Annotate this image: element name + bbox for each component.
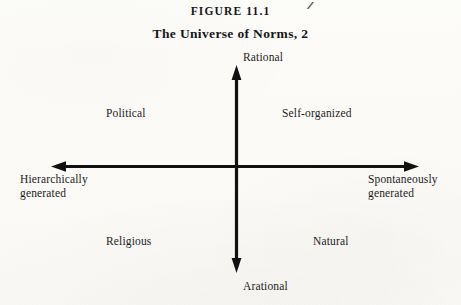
axis-label-right: Spontaneously generated — [368, 172, 438, 200]
axis-label-left-line2: generated — [20, 186, 88, 200]
axis-label-bottom: Arational — [243, 279, 288, 293]
axes-diagram — [0, 0, 461, 305]
arrowhead-left — [51, 161, 66, 172]
quadrant-label-bottom-left: Religious — [106, 234, 151, 248]
figure-page: FIGURE 11.1 The Universe of Norms, 2 Rat… — [0, 0, 461, 305]
arrowhead-right — [404, 161, 419, 172]
axis-label-left: Hierarchically generated — [20, 172, 88, 200]
axis-label-bottom-text: Arational — [243, 279, 288, 293]
axis-label-right-line2: generated — [368, 186, 438, 200]
arrowhead-up — [232, 65, 242, 80]
axis-label-right-line1: Spontaneously — [368, 172, 438, 186]
quadrant-label-bottom-right: Natural — [313, 234, 349, 248]
quadrant-label-top-right: Self-organized — [282, 106, 352, 120]
axis-label-left-line1: Hierarchically — [20, 172, 88, 186]
arrowhead-down — [232, 258, 242, 273]
axis-label-top: Rational — [243, 50, 283, 64]
quadrant-label-top-left: Political — [106, 106, 146, 120]
axis-label-top-text: Rational — [243, 50, 283, 64]
